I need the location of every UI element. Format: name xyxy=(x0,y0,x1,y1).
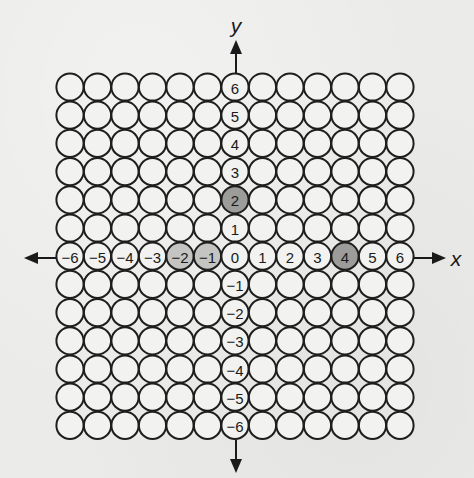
grid-circle xyxy=(111,130,138,157)
grid-cell xyxy=(386,186,413,213)
grid-cell xyxy=(249,355,276,382)
grid-cell xyxy=(194,327,221,354)
grid-circle xyxy=(139,327,166,354)
grid-circle xyxy=(84,384,111,411)
grid-circle xyxy=(386,327,413,354)
grid-circle xyxy=(194,412,221,439)
grid-cell xyxy=(84,271,111,298)
grid-circle xyxy=(139,214,166,241)
grid-circle xyxy=(166,384,193,411)
grid-circle xyxy=(84,73,111,100)
grid-cell xyxy=(111,158,138,185)
grid-cell xyxy=(56,384,83,411)
grid-circle xyxy=(276,186,303,213)
grid-cell xyxy=(386,384,413,411)
grid-circle xyxy=(276,73,303,100)
grid-cell xyxy=(139,355,166,382)
grid-circle xyxy=(194,355,221,382)
grid-cell: 1 xyxy=(221,214,248,241)
grid-cell xyxy=(139,214,166,241)
grid-circle xyxy=(84,412,111,439)
grid-circle xyxy=(331,355,358,382)
grid-circle xyxy=(359,412,386,439)
y-axis-tick-label: 2 xyxy=(231,192,239,209)
grid-cell xyxy=(304,158,331,185)
grid-cell xyxy=(386,130,413,157)
grid-cell xyxy=(276,158,303,185)
grid-cell xyxy=(386,412,413,439)
grid-circle xyxy=(56,384,83,411)
grid-cell xyxy=(56,299,83,326)
grid-cell xyxy=(166,214,193,241)
grid-circle xyxy=(84,327,111,354)
grid-cell xyxy=(166,73,193,100)
grid-circle xyxy=(331,412,358,439)
y-axis-tick-label: −5 xyxy=(226,390,243,407)
grid-circle xyxy=(386,158,413,185)
grid-circle xyxy=(56,327,83,354)
y-axis-tick-label: 1 xyxy=(231,221,239,238)
grid-cell: −4 xyxy=(221,355,248,382)
x-axis-tick-label: −2 xyxy=(171,249,188,266)
x-axis-tick-label: 4 xyxy=(341,249,349,266)
grid-circle xyxy=(166,355,193,382)
grid-circle xyxy=(111,214,138,241)
grid-cell: −6 xyxy=(221,412,248,439)
grid-circle xyxy=(194,130,221,157)
grid-cell: −2 xyxy=(221,299,248,326)
grid-circle xyxy=(249,327,276,354)
grid-circle xyxy=(304,271,331,298)
grid-cell xyxy=(331,299,358,326)
grid-cell xyxy=(304,299,331,326)
grid-cell xyxy=(56,186,83,213)
grid-circle xyxy=(386,355,413,382)
grid-cell: 6 xyxy=(221,73,248,100)
y-axis-tick-label: 3 xyxy=(231,164,239,181)
grid-circle xyxy=(56,158,83,185)
grid-cell xyxy=(386,355,413,382)
y-axis-tick-label: 5 xyxy=(231,108,239,125)
grid-cell xyxy=(111,299,138,326)
x-axis-tick-label: 3 xyxy=(313,249,321,266)
grid-circle xyxy=(386,186,413,213)
grid-cell xyxy=(249,73,276,100)
grid-circle xyxy=(386,73,413,100)
y-axis-tick-label: −3 xyxy=(226,333,243,350)
grid-circle xyxy=(56,73,83,100)
grid-circle xyxy=(194,186,221,213)
x-axis-right-arrow-icon xyxy=(432,252,446,264)
grid-cell xyxy=(331,412,358,439)
grid-cell xyxy=(84,355,111,382)
grid-circle xyxy=(359,130,386,157)
grid-cell: −5 xyxy=(221,384,248,411)
grid-cell xyxy=(359,412,386,439)
grid-circle xyxy=(359,271,386,298)
grid-cell xyxy=(304,327,331,354)
grid-cell: 0 xyxy=(221,243,248,270)
grid-cell: −3 xyxy=(221,327,248,354)
grid-cell xyxy=(249,327,276,354)
grid-cell xyxy=(331,130,358,157)
grid-cell xyxy=(84,158,111,185)
grid-circle xyxy=(276,214,303,241)
grid-circle xyxy=(111,355,138,382)
grid-cell xyxy=(359,384,386,411)
grid-circle xyxy=(386,214,413,241)
grid-cell xyxy=(359,355,386,382)
grid-cell xyxy=(331,214,358,241)
x-axis-tick-label: 0 xyxy=(231,249,239,266)
grid-circle xyxy=(276,384,303,411)
grid-cell xyxy=(56,327,83,354)
grid-circle xyxy=(249,384,276,411)
grid-circle xyxy=(166,299,193,326)
grid-circle xyxy=(56,186,83,213)
grid-cell xyxy=(276,214,303,241)
grid-circle xyxy=(359,186,386,213)
grid-cell xyxy=(304,186,331,213)
grid-circle xyxy=(249,214,276,241)
grid-cell xyxy=(111,186,138,213)
grid-cell xyxy=(139,384,166,411)
grid-cell: −6 xyxy=(56,243,83,270)
grid-cell xyxy=(386,158,413,185)
grid-circle xyxy=(56,214,83,241)
